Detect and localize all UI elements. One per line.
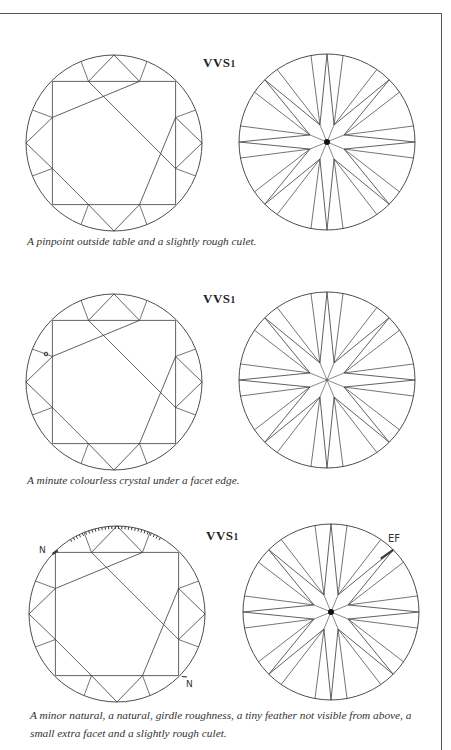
facet-line	[52, 81, 139, 117]
caption-3-line-2: small extra facet and a slightly rough c…	[30, 724, 411, 742]
girdle-roughness-tick	[73, 538, 74, 541]
pavilion-main-line	[324, 524, 331, 595]
upper-girdle-line	[81, 444, 88, 464]
facet-line	[88, 444, 114, 470]
facet-line	[88, 205, 114, 231]
pavilion-main-line	[327, 292, 334, 363]
pavilion-main-line	[334, 318, 389, 363]
pavilion-main-line	[334, 159, 389, 204]
pavilion-main-line	[265, 149, 310, 204]
upper-girdle-line	[81, 61, 88, 81]
girdle-roughness-tick	[150, 533, 151, 536]
upper-girdle-line	[140, 444, 147, 464]
upper-girdle-line	[140, 205, 147, 225]
pavilion-main-line	[344, 149, 389, 204]
pavilion-main-line	[265, 318, 310, 373]
facet-line	[26, 117, 52, 143]
facet-line	[52, 169, 88, 205]
pavilion-main-line	[269, 550, 324, 595]
pavilion-main-line	[265, 80, 310, 135]
upper-girdle-line	[32, 110, 52, 117]
grade-label-3: VVS1	[206, 528, 239, 544]
girdle-roughness-tick	[98, 528, 99, 531]
facet-line	[140, 117, 176, 204]
facet-line	[88, 294, 114, 320]
annotation-natural: N	[186, 679, 193, 689]
pavilion-main-line	[348, 619, 393, 674]
upper-girdle-line	[32, 408, 52, 415]
grade-label-2: VVS1	[203, 291, 236, 307]
pavilion-main-line	[327, 54, 334, 125]
girdle-roughness-tick	[156, 536, 157, 539]
facet-line	[29, 614, 55, 640]
facet-line	[176, 382, 202, 408]
upper-girdle-line	[179, 581, 199, 588]
girdle-roughness-tick	[153, 534, 154, 537]
natural-mark	[53, 550, 58, 554]
pavilion-main-line	[331, 524, 338, 595]
facet-line	[143, 588, 179, 675]
upper-girdle-line	[143, 676, 150, 696]
facet-line	[52, 320, 139, 356]
girdle-roughness-tick	[138, 529, 139, 532]
caption-3: A minor natural, a natural, girdle rough…	[30, 706, 411, 742]
pavilion-main-line	[269, 550, 314, 605]
facet-line	[55, 552, 142, 588]
pavilion-main-line	[344, 380, 415, 387]
facet-line	[88, 55, 114, 81]
girdle-roughness-tick	[85, 532, 86, 535]
pavilion-main-line	[265, 80, 320, 125]
pavilion-main-line	[265, 387, 310, 442]
pavilion-main-line	[320, 54, 327, 125]
pavilion-main-line	[338, 629, 393, 674]
upper-girdle-line	[140, 61, 147, 81]
pavilion-main-line	[239, 135, 310, 142]
facet-line	[176, 143, 202, 169]
girdle-roughness-tick	[79, 535, 80, 538]
pavilion-main-line	[348, 550, 393, 605]
facet-line	[26, 356, 52, 382]
pavilion-main-line	[331, 629, 338, 700]
facet-line	[26, 382, 52, 408]
upper-girdle-line	[176, 110, 196, 117]
girdle-roughness-tick	[82, 533, 83, 536]
facet-line	[88, 81, 175, 168]
upper-girdle-line	[179, 640, 199, 647]
facet-line	[117, 676, 143, 702]
facet-line	[91, 676, 117, 702]
pavilion-main-line	[348, 605, 419, 612]
pavilion-main-line	[334, 80, 389, 125]
upper-girdle-line	[84, 532, 91, 552]
pavilion-main-line	[324, 629, 331, 700]
facet-line	[91, 552, 178, 639]
pavilion-main-line	[239, 142, 310, 149]
upper-girdle-line	[81, 300, 88, 320]
upper-girdle-line	[140, 300, 147, 320]
upper-girdle-line	[35, 640, 55, 647]
pavilion-main-line	[265, 159, 320, 204]
pavilion-main-line	[344, 80, 389, 135]
upper-girdle-line	[32, 169, 52, 176]
pavilion-main-line	[344, 135, 415, 142]
facet-line	[179, 588, 205, 614]
pavilion-main-line	[239, 373, 310, 380]
girdle-roughness-tick	[76, 536, 77, 539]
girdle-roughness-tick	[131, 527, 132, 530]
facet-line	[29, 588, 55, 614]
pavilion-main-line	[269, 619, 314, 674]
facet-line	[114, 205, 140, 231]
upper-girdle-line	[81, 205, 88, 225]
pavilion-main-line	[344, 373, 415, 380]
pavilion-main-line	[327, 159, 334, 230]
girdle-roughness-tick	[89, 531, 90, 534]
girdle-roughness-tick	[147, 532, 148, 535]
upper-girdle-line	[84, 676, 91, 696]
upper-girdle-line	[176, 349, 196, 356]
pavilion-main-line	[327, 397, 334, 468]
facet-line	[55, 640, 91, 676]
upper-girdle-line	[143, 532, 150, 552]
facet-line	[179, 614, 205, 640]
diamond-diagrams: NNEF	[0, 0, 451, 750]
pavilion-main-line	[265, 318, 320, 363]
pavilion-main-line	[243, 605, 314, 612]
